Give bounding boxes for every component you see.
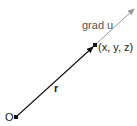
origin-label: O <box>5 112 14 123</box>
origin-point <box>14 115 18 119</box>
point-label: (x, y, z) <box>98 42 133 53</box>
vector-r-label: r <box>54 83 58 94</box>
point-xyz <box>93 43 97 47</box>
vector-diagram <box>0 0 137 126</box>
gradient-label: grad u <box>82 20 113 31</box>
